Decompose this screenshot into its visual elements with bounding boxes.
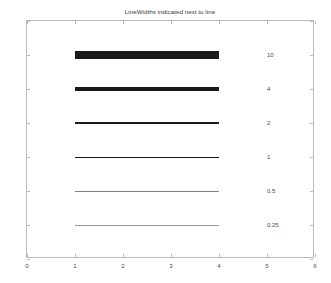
linewidth-annotation: 10	[267, 52, 274, 58]
data-line-0.25	[75, 225, 219, 226]
x-axis-tick-label: 3	[161, 263, 181, 269]
x-tick-mark	[171, 254, 172, 257]
x-tick-mark	[267, 254, 268, 257]
x-tick-mark	[123, 254, 124, 257]
data-line-10	[75, 51, 219, 60]
data-line-4	[75, 87, 219, 90]
x-tick-mark	[219, 254, 220, 257]
x-tick-mark-top	[75, 21, 76, 24]
plot-area: 012345670123456104210.50.25	[27, 21, 313, 257]
chart-title: LineWidths indicated next to line	[26, 8, 314, 15]
y-tick-mark-right	[310, 89, 313, 90]
x-tick-mark-top	[27, 21, 28, 24]
x-axis-tick-label: 0	[17, 263, 37, 269]
data-line-1	[75, 157, 219, 158]
x-axis-tick-label: 1	[65, 263, 85, 269]
y-tick-mark-right	[310, 21, 313, 22]
linewidth-annotation: 1	[267, 154, 270, 160]
y-tick-mark-right	[310, 259, 313, 260]
data-line-0.5	[75, 191, 219, 192]
y-tick-mark-right	[310, 123, 313, 124]
y-tick-mark-right	[310, 191, 313, 192]
x-tick-mark	[27, 254, 28, 257]
x-axis-tick-label: 4	[209, 263, 229, 269]
x-tick-mark-top	[123, 21, 124, 24]
x-axis-tick-label: 2	[113, 263, 133, 269]
linewidth-annotation: 0.5	[267, 188, 275, 194]
x-tick-mark	[315, 254, 316, 257]
x-tick-mark-top	[267, 21, 268, 24]
plot-box: 012345670123456104210.50.25	[26, 20, 314, 258]
y-tick-mark-right	[310, 225, 313, 226]
y-tick-mark	[27, 89, 30, 90]
y-tick-mark	[27, 225, 30, 226]
y-tick-mark	[27, 191, 30, 192]
y-tick-mark-right	[310, 55, 313, 56]
figure-canvas: LineWidths indicated next to line 012345…	[0, 0, 331, 283]
x-axis-tick-label: 6	[305, 263, 325, 269]
linewidth-annotation: 2	[267, 120, 270, 126]
x-axis-tick-label: 5	[257, 263, 277, 269]
y-tick-mark	[27, 157, 30, 158]
linewidth-annotation: 4	[267, 86, 270, 92]
data-line-2	[75, 122, 219, 124]
y-tick-mark-right	[310, 157, 313, 158]
linewidth-annotation: 0.25	[267, 222, 279, 228]
y-tick-mark	[27, 55, 30, 56]
x-tick-mark-top	[315, 21, 316, 24]
y-tick-mark	[27, 259, 30, 260]
x-tick-mark-top	[219, 21, 220, 24]
x-tick-mark	[75, 254, 76, 257]
x-tick-mark-top	[171, 21, 172, 24]
y-tick-mark	[27, 123, 30, 124]
